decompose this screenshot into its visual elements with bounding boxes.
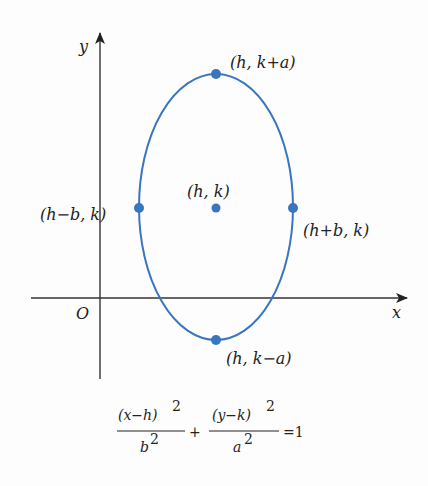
equation-plus: +	[189, 424, 201, 440]
equation-exp-1b: 2	[150, 431, 159, 447]
center-label: (h, k)	[187, 182, 230, 201]
ellipse-diagram: x y O (h, k+a) (h, k) (h−b, k) (h+b, k) …	[0, 0, 428, 486]
origin-label: O	[76, 304, 89, 323]
ellipse-equation: (x−h) 2 b 2 + (y−k) 2 a 2 =1	[117, 398, 304, 455]
left-covertex-point	[134, 203, 144, 213]
right-covertex-point	[288, 203, 298, 213]
top-vertex-label: (h, k+a)	[230, 53, 296, 72]
right-covertex-label: (h+b, k)	[303, 221, 369, 240]
equation-numerator-2: (y−k)	[212, 407, 251, 423]
equation-rhs: =1	[283, 424, 304, 440]
equation-denominator-1: b	[140, 439, 149, 455]
bottom-vertex-label: (h, k−a)	[226, 349, 292, 368]
equation-numerator-1: (x−h)	[118, 407, 158, 423]
top-vertex-point	[211, 69, 221, 79]
y-axis-label: y	[78, 37, 89, 56]
equation-exp-2b: 2	[244, 431, 253, 447]
equation-exp-2: 2	[266, 398, 275, 414]
bottom-vertex-point	[211, 335, 221, 345]
left-covertex-label: (h−b, k)	[40, 205, 106, 224]
x-axis-label: x	[392, 303, 401, 322]
equation-denominator-2: a	[233, 439, 241, 455]
equation-exp-1: 2	[172, 398, 181, 414]
center-point	[212, 204, 221, 213]
